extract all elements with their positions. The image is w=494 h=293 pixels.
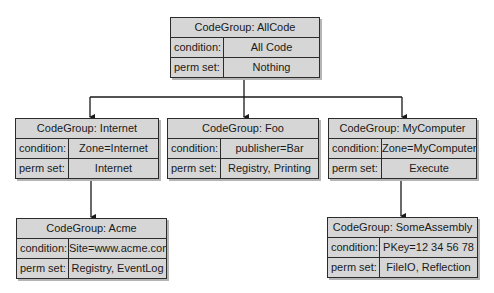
condition-label: condition: (329, 139, 382, 158)
permset-label: perm set: (329, 159, 382, 178)
condition-value: Zone=Internet (69, 139, 158, 158)
condition-row: condition: Site=www.acme.com (17, 239, 166, 258)
permset-row: perm set: Registry, Printing (168, 158, 318, 178)
permset-value: Nothing (224, 58, 319, 77)
condition-value: publisher=Bar (221, 139, 318, 158)
node-title: CodeGroup: SomeAssembly (328, 218, 477, 238)
permset-label: perm set: (171, 58, 224, 77)
condition-label: condition: (168, 139, 221, 158)
condition-label: condition: (16, 139, 69, 158)
permset-row: perm set: Internet (16, 158, 158, 178)
permset-value: Registry, EventLog (69, 259, 166, 278)
permset-row: perm set: Registry, EventLog (17, 258, 166, 278)
codegroup-internet: CodeGroup: Internet condition: Zone=Inte… (15, 118, 159, 179)
condition-value: Zone=MyComputer (382, 139, 476, 158)
permset-value: FileIO, Reflection (380, 258, 477, 277)
permset-label: perm set: (328, 258, 380, 277)
node-title: CodeGroup: Internet (16, 119, 158, 139)
condition-row: condition: Zone=Internet (16, 139, 158, 158)
codegroup-allcode: CodeGroup: AllCode condition: All Code p… (170, 17, 320, 78)
permset-label: perm set: (16, 159, 69, 178)
node-title: CodeGroup: MyComputer (329, 119, 476, 139)
node-title: CodeGroup: Foo (168, 119, 318, 139)
permset-row: perm set: Execute (329, 158, 476, 178)
condition-label: condition: (17, 239, 69, 258)
permset-row: perm set: Nothing (171, 57, 319, 77)
codegroup-someassembly: CodeGroup: SomeAssembly condition: PKey=… (327, 217, 478, 278)
node-title: CodeGroup: AllCode (171, 18, 319, 38)
condition-row: condition: All Code (171, 38, 319, 57)
permset-value: Execute (382, 159, 476, 178)
codegroup-acme: CodeGroup: Acme condition: Site=www.acme… (16, 218, 167, 279)
permset-row: perm set: FileIO, Reflection (328, 257, 477, 277)
codegroup-mycomputer: CodeGroup: MyComputer condition: Zone=My… (328, 118, 477, 179)
codegroup-foo: CodeGroup: Foo condition: publisher=Bar … (167, 118, 319, 179)
permset-value: Internet (69, 159, 158, 178)
node-title: CodeGroup: Acme (17, 219, 166, 239)
permset-label: perm set: (17, 259, 69, 278)
condition-row: condition: Zone=MyComputer (329, 139, 476, 158)
condition-row: condition: PKey=12 34 56 78 (328, 238, 477, 257)
condition-label: condition: (171, 38, 224, 57)
condition-value: All Code (224, 38, 319, 57)
condition-row: condition: publisher=Bar (168, 139, 318, 158)
permset-label: perm set: (168, 159, 221, 178)
permset-value: Registry, Printing (221, 159, 318, 178)
condition-value: PKey=12 34 56 78 (380, 238, 477, 257)
condition-value: Site=www.acme.com (69, 239, 166, 258)
condition-label: condition: (328, 238, 380, 257)
